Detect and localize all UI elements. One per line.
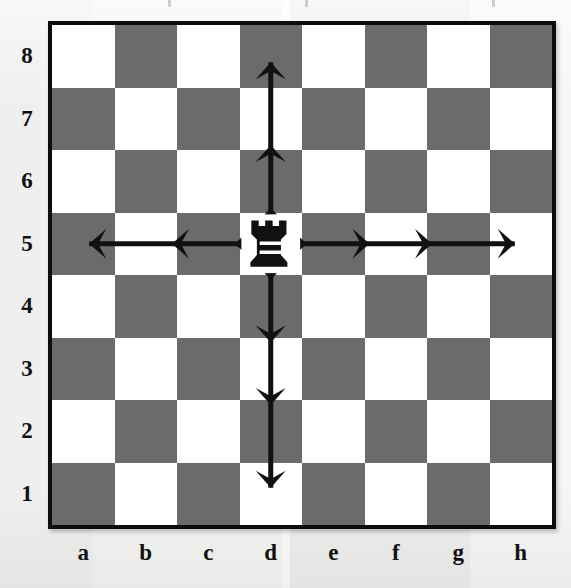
square-f5 [365,213,428,276]
file-label-e: e [313,541,353,564]
square-e4 [302,275,365,338]
square-a3 [52,338,115,401]
rank-label-4: 4 [10,294,44,317]
rank-label-8: 8 [10,44,44,67]
square-c1 [177,463,240,526]
square-h2 [490,400,553,463]
square-a1 [52,463,115,526]
square-g8 [427,25,490,88]
square-g2 [427,400,490,463]
square-b2 [115,400,178,463]
square-e8 [302,25,365,88]
cut-mark-3 [492,0,495,7]
square-a2 [52,400,115,463]
square-g7 [427,88,490,151]
square-a4 [52,275,115,338]
square-d1 [240,463,303,526]
chess-diagram: 87654321 abcdefgh [0,0,571,588]
square-g6 [427,150,490,213]
square-d7 [240,88,303,151]
rank-label-2: 2 [10,419,44,442]
square-h3 [490,338,553,401]
square-b7 [115,88,178,151]
file-label-h: h [501,541,541,564]
file-label-a: a [63,541,103,564]
square-f6 [365,150,428,213]
square-h7 [490,88,553,151]
square-e3 [302,338,365,401]
square-c2 [177,400,240,463]
square-h5 [490,213,553,276]
square-h6 [490,150,553,213]
square-e7 [302,88,365,151]
rank-label-3: 3 [10,357,44,380]
square-c4 [177,275,240,338]
square-d6 [240,150,303,213]
square-b4 [115,275,178,338]
rank-label-6: 6 [10,169,44,192]
square-d3 [240,338,303,401]
square-e5 [302,213,365,276]
chessboard [48,21,556,529]
square-b3 [115,338,178,401]
square-d5 [240,213,303,276]
square-f2 [365,400,428,463]
square-h8 [490,25,553,88]
square-h4 [490,275,553,338]
square-d2 [240,400,303,463]
square-f3 [365,338,428,401]
square-a8 [52,25,115,88]
square-g3 [427,338,490,401]
square-e6 [302,150,365,213]
square-d8 [240,25,303,88]
square-b5 [115,213,178,276]
square-f4 [365,275,428,338]
file-label-g: g [438,541,478,564]
file-label-d: d [251,541,291,564]
cut-mark-1 [168,0,171,7]
file-label-f: f [376,541,416,564]
rank-label-5: 5 [10,232,44,255]
square-b1 [115,463,178,526]
rank-label-7: 7 [10,107,44,130]
square-h1 [490,463,553,526]
square-e2 [302,400,365,463]
cut-mark-2 [305,0,308,7]
square-c3 [177,338,240,401]
square-f7 [365,88,428,151]
square-e1 [302,463,365,526]
rank-label-1: 1 [10,482,44,505]
square-f8 [365,25,428,88]
square-a5 [52,213,115,276]
square-b6 [115,150,178,213]
square-c6 [177,150,240,213]
file-label-b: b [126,541,166,564]
file-label-c: c [188,541,228,564]
square-g4 [427,275,490,338]
square-d4 [240,275,303,338]
square-g1 [427,463,490,526]
square-g5 [427,213,490,276]
board-squares [52,25,552,525]
square-a6 [52,150,115,213]
square-a7 [52,88,115,151]
square-f1 [365,463,428,526]
square-c8 [177,25,240,88]
square-b8 [115,25,178,88]
square-c5 [177,213,240,276]
square-c7 [177,88,240,151]
